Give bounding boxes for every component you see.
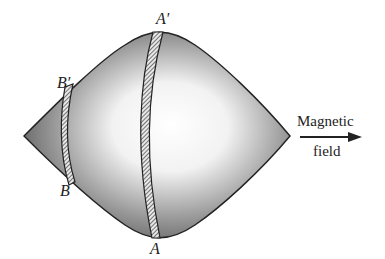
label-a-prime: A′ xyxy=(155,10,170,27)
label-b: B xyxy=(60,182,70,199)
field-label-line2: field xyxy=(313,143,341,159)
field-label-line1: Magnetic xyxy=(297,113,354,129)
magnetic-bottle-diagram: A′ A B′ B Magnetic field xyxy=(0,0,385,259)
arrow-right-icon xyxy=(348,132,362,142)
label-b-prime: B′ xyxy=(57,74,71,91)
label-a: A xyxy=(149,240,160,257)
